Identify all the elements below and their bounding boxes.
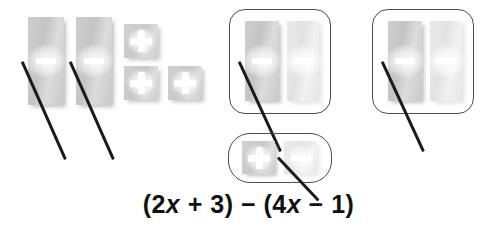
expression-token: 1: [331, 190, 345, 218]
expression-token: +: [180, 190, 210, 218]
expression-token: ): [225, 190, 234, 218]
expression-token: 2: [151, 190, 165, 218]
expression-variable: x: [166, 190, 180, 218]
minus-icon: [36, 58, 56, 64]
x-tile[interactable]: [287, 21, 319, 101]
plus-icon: [248, 147, 270, 169]
minus-icon: [252, 58, 272, 64]
expression-token: 3: [210, 190, 224, 218]
x-tile[interactable]: [28, 17, 64, 105]
x-tile[interactable]: [245, 21, 279, 101]
expression-token: −: [234, 190, 264, 218]
expression-token: (: [264, 190, 273, 218]
plus-icon: [130, 30, 152, 52]
unit-tile[interactable]: [242, 141, 275, 174]
plus-icon: [174, 72, 196, 94]
x-tile[interactable]: [388, 21, 422, 101]
expression-token: −: [301, 190, 331, 218]
unit-tile[interactable]: [168, 66, 202, 100]
expression-label: (2x + 3) − (4x − 1): [0, 190, 497, 219]
expression-variable: x: [287, 190, 301, 218]
minus-icon: [293, 58, 313, 64]
minus-icon: [436, 58, 456, 64]
unit-tile[interactable]: [284, 141, 317, 174]
x-tile[interactable]: [76, 17, 112, 105]
minus-icon: [84, 58, 104, 64]
minus-icon: [395, 58, 415, 64]
plus-icon: [130, 72, 152, 94]
x-tile[interactable]: [430, 21, 462, 101]
expression-token: ): [346, 190, 355, 218]
unit-tile[interactable]: [124, 24, 158, 58]
algebra-tiles-diagram: (2x + 3) − (4x − 1): [0, 0, 497, 227]
expression-token: 4: [272, 190, 286, 218]
unit-tile[interactable]: [124, 66, 158, 100]
minus-icon: [291, 155, 311, 161]
